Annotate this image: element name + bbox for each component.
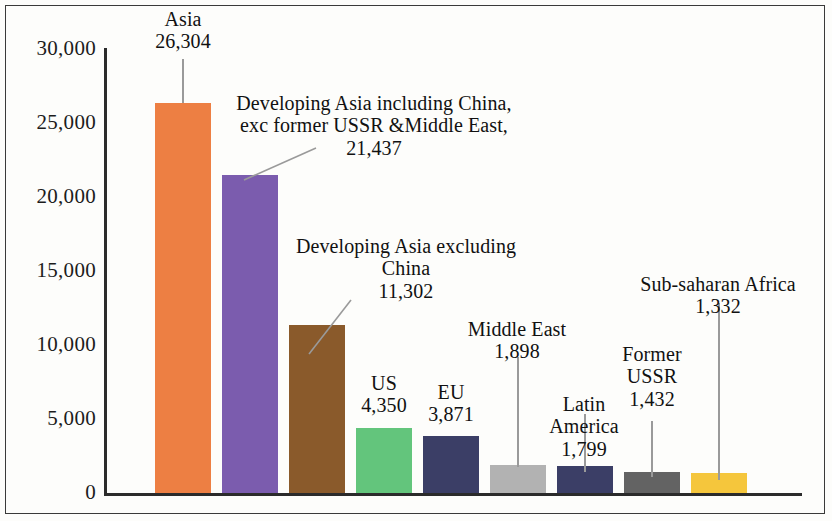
leader-line-sub-saharan-africa	[718, 303, 720, 480]
leader-line-former-ussr	[651, 421, 653, 477]
bar-eu	[423, 436, 479, 493]
leader-line-middle-east	[517, 357, 519, 467]
label-asia: Asia 26,304	[131, 8, 235, 53]
bar-developing-asia-including-china	[222, 175, 278, 493]
bar-us	[356, 428, 412, 493]
label-developing-asia-excluding-china: Developing Asia excluding China 11,302	[272, 235, 540, 302]
leader-line-asia	[182, 59, 184, 103]
y-tick-0: 0	[8, 480, 96, 505]
y-tick-25000: 25,000	[8, 110, 96, 135]
y-tick-5000: 5,000	[8, 406, 96, 431]
y-axis-line	[104, 48, 107, 495]
bar-asia	[155, 103, 211, 493]
label-developing-asia-including-china: Developing Asia including China, exc for…	[213, 92, 535, 159]
label-eu: EU 3,871	[406, 381, 496, 426]
label-middle-east: Middle East 1,898	[444, 318, 590, 363]
y-tick-15000: 15,000	[8, 258, 96, 283]
label-sub-saharan-africa: Sub-saharan Africa 1,332	[605, 273, 831, 318]
leader-line-developing-asia-excluding-china	[305, 300, 353, 356]
y-tick-30000: 30,000	[8, 36, 96, 61]
bar-middle-east	[490, 465, 546, 493]
chart-figure: 30,000 25,000 20,000 15,000 10,000 5,000…	[0, 0, 832, 521]
y-tick-20000: 20,000	[8, 184, 96, 209]
label-former-ussr: Former USSR 1,432	[607, 343, 697, 410]
plot-area: 30,000 25,000 20,000 15,000 10,000 5,000…	[0, 0, 832, 521]
y-tick-10000: 10,000	[8, 332, 96, 357]
x-axis-line	[104, 493, 802, 496]
